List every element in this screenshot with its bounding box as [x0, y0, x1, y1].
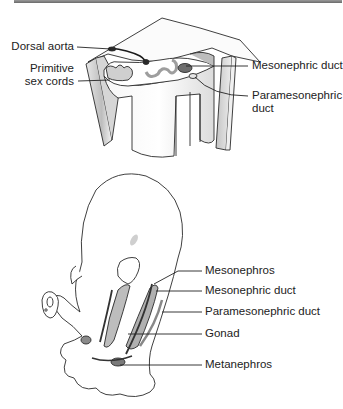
label-gonad: Gonad — [205, 327, 240, 340]
cross-section-block — [86, 18, 260, 157]
label-mesonephros: Mesonephros — [205, 264, 275, 277]
label-dorsal-aorta: Dorsal aorta — [6, 40, 74, 53]
label-primitive-sex-cords-line1: Primitive — [6, 62, 74, 75]
label-mesonephric-duct-bottom: Mesonephric duct — [205, 284, 296, 297]
embryo-figure — [42, 174, 183, 397]
label-primitive-sex-cords-line2: sex cords — [6, 75, 74, 88]
label-paramesonephric-duct-top-line2: duct — [252, 102, 274, 115]
label-paramesonephric-duct-bottom: Paramesonephric duct — [205, 305, 320, 318]
label-metanephros: Metanephros — [205, 358, 272, 371]
label-paramesonephric-duct-top-line1: Paramesonephric — [252, 89, 342, 102]
label-mesonephric-duct-top: Mesonephric duct — [252, 59, 343, 72]
leader-dorsal-aorta — [77, 47, 111, 49]
